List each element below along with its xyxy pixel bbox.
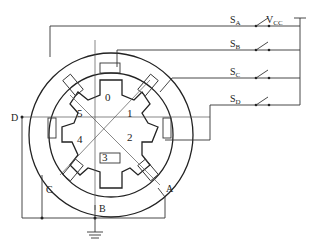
stator-poles	[48, 63, 171, 181]
rotor-tooth-5: 5	[77, 107, 83, 119]
switch-label-a: SA	[230, 14, 241, 27]
switch-label-b: SB	[230, 38, 241, 51]
phase-label-a: A	[166, 183, 174, 194]
phase-label-c: C	[46, 184, 53, 195]
switch-label-c: SC	[230, 66, 241, 79]
rotor-tooth-1: 1	[127, 107, 133, 119]
rotor-tooth-4: 4	[77, 133, 83, 145]
stepper-motor-diagram: 0 1 2 3 4 5 SA SB SC SD VCC	[0, 0, 314, 251]
switch-label-d: SD	[230, 93, 241, 106]
phase-label-d: D	[11, 112, 18, 123]
rotor-tooth-2: 2	[127, 131, 133, 143]
rotor-tooth-0: 0	[105, 91, 111, 103]
rotor-tooth-3: 3	[102, 151, 108, 163]
phase-label-b: B	[99, 203, 106, 214]
ground-icon	[87, 232, 103, 238]
